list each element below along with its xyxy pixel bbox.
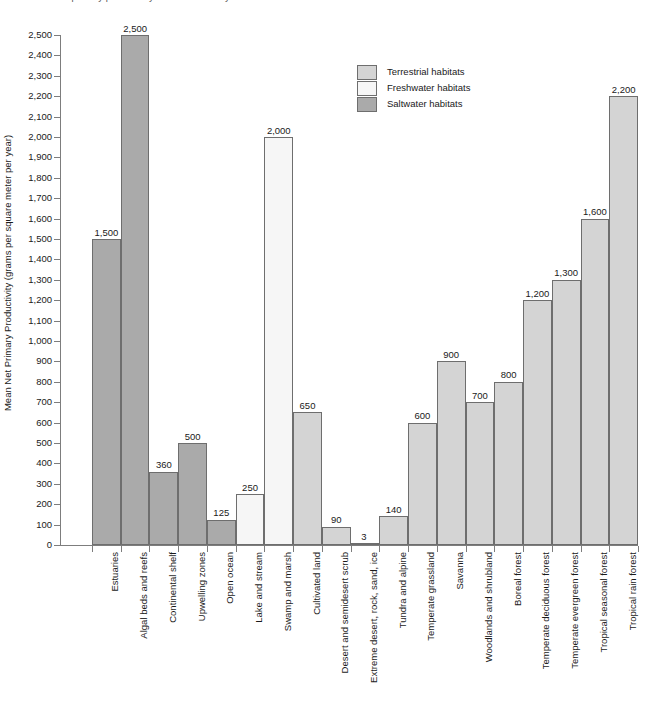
bar[interactable] xyxy=(609,96,638,545)
bar-value-label: 2,200 xyxy=(612,85,636,95)
x-axis-tick-label[interactable]: Boreal forest xyxy=(494,552,523,712)
bar-slot: 2,200 xyxy=(609,35,638,545)
y-axis-tick-label: 2,300 xyxy=(6,71,52,81)
x-axis-tick-label[interactable]: Open ocean xyxy=(207,552,236,712)
y-axis-tick-mark xyxy=(54,35,61,36)
bar[interactable] xyxy=(149,472,178,545)
x-axis-tick-label[interactable]: Temperate deciduous forest xyxy=(523,552,552,712)
y-axis-tick-label: 300 xyxy=(6,479,52,489)
legend-item[interactable]: Terrestrial habitats xyxy=(357,64,527,80)
x-axis-tick-label[interactable]: Estuaries xyxy=(92,552,121,712)
bar[interactable] xyxy=(494,382,523,545)
bar[interactable] xyxy=(552,280,581,545)
y-axis-tick-mark xyxy=(54,198,61,199)
x-axis-tick-label-text: Continental shelf xyxy=(168,552,178,623)
bar[interactable] xyxy=(581,219,610,545)
x-axis-tick-label[interactable]: Upwelling zones xyxy=(178,552,207,712)
x-axis-tick-label[interactable]: Lake and stream xyxy=(236,552,265,712)
x-axis-tick-label[interactable]: Temperate grassland xyxy=(408,552,437,712)
bar-value-label: 500 xyxy=(185,432,201,442)
bar[interactable] xyxy=(264,137,293,545)
y-axis-tick-label: 2,100 xyxy=(6,112,52,122)
y-axis-tick-mark xyxy=(54,55,61,56)
x-axis-tick-label-text: Temperate evergreen forest xyxy=(570,552,580,669)
x-axis-tick-label-text: Woodlands and shrubland xyxy=(484,552,494,662)
y-axis-tick-mark xyxy=(54,504,61,505)
y-axis-tick-mark xyxy=(54,157,61,158)
x-axis-tick-label[interactable]: Tropical seasonal forest xyxy=(581,552,610,712)
legend-item[interactable]: Saltwater habitats xyxy=(357,96,527,112)
x-axis-tick-label-text: Open ocean xyxy=(225,552,235,604)
x-axis-tick-label[interactable]: Algal beds and reefs xyxy=(121,552,150,712)
x-axis-tick-label-text: Extreme desert, rock, sand, ice xyxy=(369,552,379,683)
y-axis-tick-mark xyxy=(54,239,61,240)
bar[interactable] xyxy=(322,527,351,545)
y-axis-tick-label: 0 xyxy=(6,540,52,550)
y-axis-tick-mark xyxy=(54,484,61,485)
bar[interactable] xyxy=(178,443,207,545)
x-axis-tick-labels: EstuariesAlgal beds and reefsContinental… xyxy=(0,552,645,718)
x-axis-tick-label[interactable]: Cultivated land xyxy=(293,552,322,712)
bar-value-label: 1,200 xyxy=(526,289,550,299)
x-axis-tick-mark xyxy=(552,546,553,552)
x-axis-tick-label[interactable]: Tropical rain forest xyxy=(609,552,638,712)
bar-value-label: 1,600 xyxy=(583,207,607,217)
y-axis-tick-mark xyxy=(54,259,61,260)
y-axis-tick-mark xyxy=(54,280,61,281)
bar[interactable] xyxy=(293,412,322,545)
x-axis-tick-label[interactable]: Temperate evergreen forest xyxy=(552,552,581,712)
x-axis-tick-label[interactable]: Continental shelf xyxy=(149,552,178,712)
legend-item[interactable]: Freshwater habitats xyxy=(357,80,527,96)
bar[interactable] xyxy=(236,494,265,545)
x-axis-tick-mark xyxy=(121,546,122,552)
x-axis-tick-label-text: Upwelling zones xyxy=(197,552,207,621)
x-axis-tick-mark xyxy=(293,546,294,552)
bar[interactable] xyxy=(121,35,150,545)
x-axis-tick-label-text: Temperate grassland xyxy=(426,552,436,641)
y-axis-tick-label: 600 xyxy=(6,418,52,428)
y-axis-tick-mark xyxy=(54,443,61,444)
legend-swatch-terrestrial xyxy=(357,65,377,80)
bar[interactable] xyxy=(408,423,437,545)
x-axis-tick-label[interactable]: Extreme desert, rock, sand, ice xyxy=(351,552,380,712)
bar[interactable] xyxy=(466,402,495,545)
x-axis-tick-label-text: Lake and stream xyxy=(254,552,264,623)
bar[interactable] xyxy=(207,520,236,546)
y-axis-tick-label: 1,200 xyxy=(6,295,52,305)
x-axis-tick-mark xyxy=(523,546,524,552)
x-axis-tick-mark xyxy=(149,546,150,552)
x-axis-tick-label[interactable]: Woodlands and shrubland xyxy=(466,552,495,712)
bar[interactable] xyxy=(523,300,552,545)
bar-slot: 2,500 xyxy=(121,35,150,545)
x-axis-tick-label[interactable]: Savanna xyxy=(437,552,466,712)
bar-chart: Mean Net Primary Productivity (grams per… xyxy=(0,0,645,718)
y-axis-tick-mark xyxy=(54,382,61,383)
y-axis-tick-label: 1,900 xyxy=(6,152,52,162)
x-axis-tick-mark xyxy=(379,546,380,552)
bar[interactable] xyxy=(379,516,408,545)
bar[interactable] xyxy=(437,361,466,545)
x-axis-tick-label[interactable]: Tundra and alpine xyxy=(379,552,408,712)
x-axis-tick-mark xyxy=(264,546,265,552)
x-axis-tick-label-text: Desert and semidesert scrub xyxy=(340,552,350,673)
legend-label: Freshwater habitats xyxy=(387,83,470,93)
x-axis-tick-label-text: Tropical rain forest xyxy=(628,552,638,630)
bar[interactable] xyxy=(351,543,380,545)
bar-slot: 500 xyxy=(178,35,207,545)
bar-value-label: 600 xyxy=(415,411,431,421)
bar-value-label: 125 xyxy=(213,508,229,518)
x-axis-tick-label[interactable]: Swamp and marsh xyxy=(264,552,293,712)
x-axis-tick-label[interactable]: Desert and semidesert scrub xyxy=(322,552,351,712)
x-axis-tick-mark xyxy=(466,546,467,552)
y-axis-tick-mark xyxy=(54,137,61,138)
y-axis-tick-mark xyxy=(54,402,61,403)
bar-slot: 650 xyxy=(293,35,322,545)
y-axis-tick-mark xyxy=(54,219,61,220)
y-axis-tick-mark xyxy=(54,178,61,179)
x-axis-tick-label-text: Tundra and alpine xyxy=(398,552,408,628)
x-axis-tick-label-text: Savanna xyxy=(455,552,465,590)
bar-value-label: 90 xyxy=(331,515,342,525)
y-axis-tick-label: 500 xyxy=(6,438,52,448)
x-axis-tick-label-text: Swamp and marsh xyxy=(283,552,293,631)
bar[interactable] xyxy=(92,239,121,545)
